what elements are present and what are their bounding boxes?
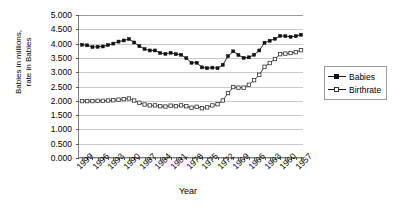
- x-axis-title-text: Year: [179, 186, 197, 196]
- chart-legend: Babies Birthrate: [324, 66, 387, 100]
- legend-item-babies[interactable]: Babies: [328, 70, 381, 83]
- legend-item-birthrate[interactable]: Birthrate: [328, 83, 381, 96]
- legend-marker-birthrate-icon: [328, 85, 346, 94]
- chart-container: Babies in millions, rate in Babies 5.000…: [0, 0, 398, 208]
- x-axis-tick-label: 1957: [293, 151, 313, 171]
- legend-label-birthrate: Birthrate: [349, 85, 381, 95]
- x-axis-tick-labels: 1999199619931990198719841981197819751972…: [0, 0, 398, 208]
- legend-marker-babies-icon: [328, 72, 346, 81]
- legend-label-babies: Babies: [349, 72, 375, 82]
- x-axis-title: Year: [0, 186, 398, 196]
